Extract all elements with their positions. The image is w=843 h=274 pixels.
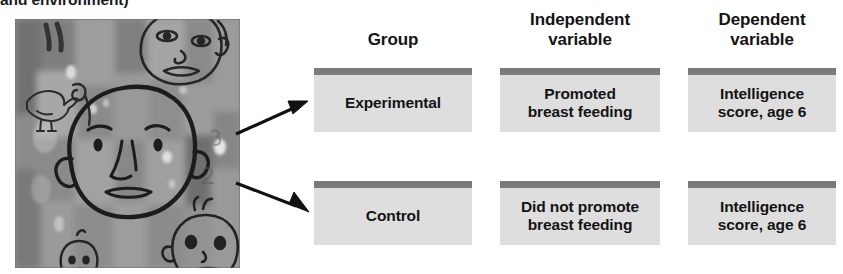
column-header-independent-variable: Independent variable [500, 10, 660, 50]
cell-experimental-independent-line-2: breast feeding [528, 103, 633, 121]
photo-illustration [15, 19, 240, 268]
column-header-group-line-1: Group [368, 30, 419, 49]
cell-control-group: Control [314, 181, 472, 245]
column-header-dependent-variable: Dependent variable [688, 10, 836, 50]
cell-experimental-group-line-1: Experimental [345, 94, 441, 112]
column-header-dependent-variable-line-1: Dependent [688, 10, 836, 30]
cell-control-independent-text: Did not promote breast feeding [521, 198, 639, 236]
cell-control-independent-line-1: Did not promote [521, 198, 639, 216]
cell-control-group-line-1: Control [366, 207, 420, 225]
cell-control-group-text: Control [366, 207, 420, 227]
arrow-to-experimental [236, 101, 308, 134]
cell-experimental-dependent-line-1: Intelligence [718, 85, 806, 103]
column-header-group: Group [314, 30, 472, 50]
cell-experimental-group: Experimental [314, 68, 472, 132]
cell-experimental-dependent-line-2: score, age 6 [718, 103, 806, 121]
cell-control-independent: Did not promote breast feeding [500, 181, 660, 245]
arrow-to-control [236, 183, 309, 212]
child-artwork-photograph [15, 19, 240, 268]
cell-experimental-independent-text: Promoted breast feeding [528, 85, 633, 123]
cell-control-independent-line-2: breast feeding [521, 216, 639, 234]
cell-control-dependent-text: Intelligence score, age 6 [718, 198, 806, 236]
cell-experimental-group-text: Experimental [345, 94, 441, 114]
cell-control-dependent: Intelligence score, age 6 [688, 181, 836, 245]
cell-experimental-independent: Promoted breast feeding [500, 68, 660, 132]
column-header-independent-variable-line-1: Independent [500, 10, 660, 30]
caption-text-fragment: and environment) [0, 0, 260, 9]
cell-experimental-independent-line-1: Promoted [528, 85, 633, 103]
column-header-independent-variable-line-2: variable [500, 30, 660, 50]
cell-control-dependent-line-1: Intelligence [718, 198, 806, 216]
column-header-dependent-variable-line-2: variable [688, 30, 836, 50]
cell-control-dependent-line-2: score, age 6 [718, 216, 806, 234]
cell-experimental-dependent: Intelligence score, age 6 [688, 68, 836, 132]
cell-experimental-dependent-text: Intelligence score, age 6 [718, 85, 806, 123]
